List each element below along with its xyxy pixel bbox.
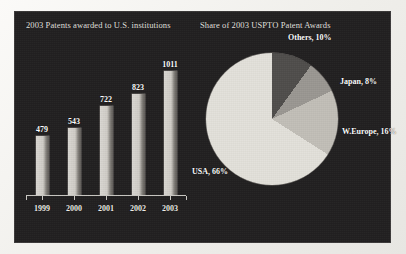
bar-rect [164,71,177,195]
pie-label-others: Others, 10% [288,33,332,42]
axis-tick [138,196,139,200]
bar-chart: 4795437228231011 19992000200120022003 [18,35,198,225]
bar-value-label: 1011 [162,61,178,69]
bar-value-label: 823 [132,84,144,92]
bar-value-label: 479 [36,126,48,134]
axis-tick [170,196,171,200]
pie-label-japan: Japan, 8% [340,77,377,86]
pie-chart: Others, 10% Japan, 8% W.Europe, 16% USA,… [190,29,390,229]
bar-rect [68,128,81,195]
axis-tick [186,196,187,200]
bar-plot-area: 4795437228231011 [26,55,186,195]
axis-tick [26,196,27,200]
axis-tick [106,196,107,200]
bar-rect [132,94,145,195]
axis-tick [42,196,43,200]
bar-column: 823 [132,84,145,195]
bar-category-label: 2001 [98,204,114,213]
bar-chart-title: 2003 Patents awarded to U.S. institution… [26,20,171,30]
bar-category-label: 2003 [162,204,178,213]
axis-tick [74,196,75,200]
pie-label-usa: USA, 66% [192,167,228,176]
bar-column: 1011 [164,61,177,195]
bar-category-label: 2002 [130,204,146,213]
pie-label-weurope: W.Europe, 16% [342,127,396,136]
chart-panel: 2003 Patents awarded to U.S. institution… [14,11,391,243]
bar-rect [100,106,113,195]
bar-value-label: 543 [68,118,80,126]
bar-column: 479 [36,126,49,195]
bar-value-label: 722 [100,96,112,104]
pie-disc [206,53,338,185]
bar-column: 722 [100,96,113,195]
bar-rect [36,136,49,195]
bar-category-label: 2000 [66,204,82,213]
bar-category-label: 1999 [34,204,50,213]
bar-column: 543 [68,118,81,195]
screenshot-root: 2003 Patents awarded to U.S. institution… [0,0,406,254]
